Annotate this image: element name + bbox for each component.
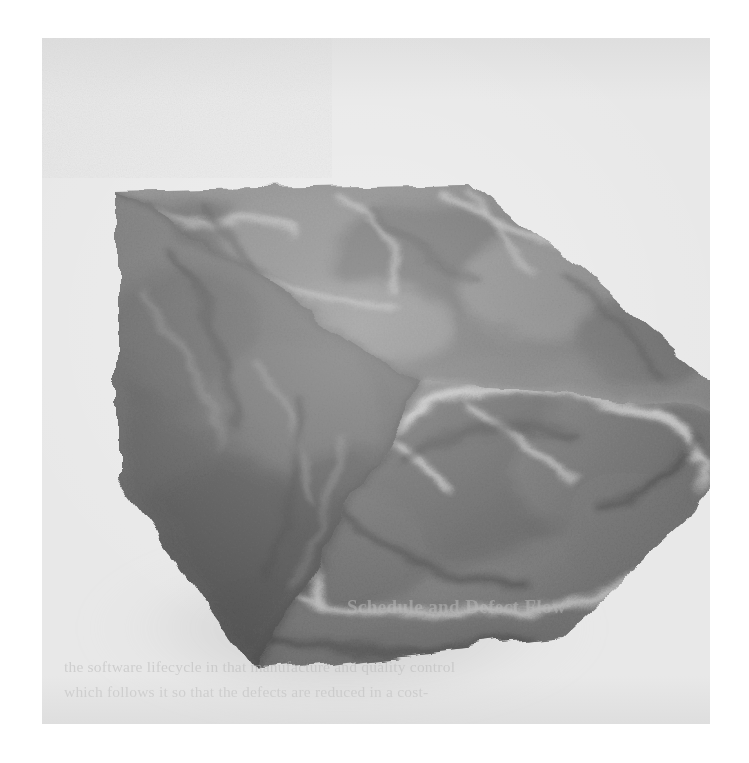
volume-rendered-cube-graphic — [42, 38, 710, 724]
scanned-image-panel: Schedule and Defect Flow the software li… — [42, 38, 710, 724]
cube-figure — [42, 38, 710, 724]
scanned-document-page: Schedule and Defect Flow the software li… — [0, 0, 749, 763]
bleed-through-heading: Schedule and Defect Flow — [347, 596, 566, 618]
bleed-through-line-2: which follows it so that the defects are… — [64, 683, 428, 701]
bleed-through-line-1: the software lifecycle in that manufactu… — [64, 658, 455, 676]
cube-scan-blur-overlay — [42, 38, 710, 724]
